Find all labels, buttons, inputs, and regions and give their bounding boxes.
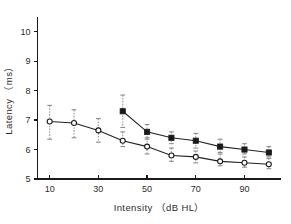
marker-open-circle-series-60	[169, 153, 174, 158]
y-tick-label-6: 6	[25, 145, 30, 155]
y-tick-label-10: 10	[20, 27, 30, 37]
marker-open-circle-series-90	[242, 160, 247, 165]
x-axis-tick-labels: 1030507090	[45, 184, 250, 194]
y-tick-label-7: 7	[25, 115, 30, 125]
marker-filled-square-series-90	[242, 147, 247, 152]
y-tick-label-8: 8	[25, 86, 30, 96]
x-tick-label-70: 70	[191, 184, 201, 194]
y-tick-label-5: 5	[25, 174, 30, 184]
marker-open-circle-series-100	[266, 162, 271, 167]
x-axis-title: Intensity （dB HL）	[114, 202, 205, 213]
marker-open-circle-series-20	[72, 121, 77, 126]
y-tick-label-9: 9	[25, 56, 30, 66]
y-axis-title: Latency （ms）	[3, 61, 14, 134]
marker-filled-square-series-60	[169, 135, 174, 140]
marker-open-circle-series-10	[47, 119, 52, 124]
marker-open-circle-series-30	[96, 128, 101, 133]
marker-filled-square-series-100	[266, 150, 271, 155]
marker-filled-square-series-50	[144, 129, 149, 134]
marker-open-circle-series-50	[145, 144, 150, 149]
marker-filled-square-series-70	[193, 138, 198, 143]
error-bars	[47, 95, 271, 169]
marker-filled-square-series-80	[218, 144, 223, 149]
series-lines	[50, 111, 269, 164]
x-tick-label-30: 30	[93, 184, 103, 194]
marker-open-circle-series-40	[120, 138, 125, 143]
marker-open-circle-series-70	[193, 154, 198, 159]
marker-open-circle-series-80	[218, 159, 223, 164]
marker-filled-square-series-40	[120, 109, 125, 114]
line-open-circle-series	[50, 122, 269, 165]
chart-figure: 5678910 1030507090 Intensity （dB HL） Lat…	[0, 0, 291, 224]
x-tick-label-10: 10	[45, 184, 55, 194]
y-axis-tick-labels: 5678910	[20, 27, 30, 184]
x-tick-label-90: 90	[239, 184, 249, 194]
data-point-markers	[47, 109, 271, 167]
latency-vs-intensity-chart: 5678910 1030507090 Intensity （dB HL） Lat…	[0, 0, 291, 224]
x-tick-label-50: 50	[142, 184, 152, 194]
